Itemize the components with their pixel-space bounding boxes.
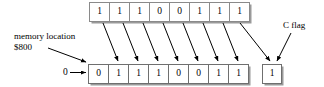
memory-address-label: $800 xyxy=(14,42,32,53)
c-flag-box xyxy=(263,65,282,84)
shift-arrow-bit-5 xyxy=(183,23,198,61)
shift-arrow-bit-7 xyxy=(223,23,238,61)
shift-arrow-bit-6 xyxy=(203,23,218,61)
result-bits-row xyxy=(89,65,249,84)
shift-arrow-bit-2 xyxy=(123,23,138,61)
shift-right-diagram: 1 1 1 0 0 1 1 1 0 1 1 1 0 0 1 1 1 memory… xyxy=(0,0,324,87)
diagram-vector-layer xyxy=(0,0,324,87)
memory-location-leader-arrow xyxy=(48,48,86,62)
zero-input-label: 0 xyxy=(63,67,68,78)
shift-arrow-bit-1 xyxy=(103,23,118,61)
shift-arrow-bit-3 xyxy=(143,23,158,61)
c-flag-leader-arrow xyxy=(277,33,291,61)
source-bits-row xyxy=(90,3,250,22)
shift-arrow-bit-4 xyxy=(163,23,178,61)
shift-arrows-group xyxy=(103,23,270,61)
memory-location-label: memory location xyxy=(14,31,75,42)
shift-arrow-bit-8-to-carry xyxy=(240,23,270,61)
c-flag-label: C flag xyxy=(283,20,305,31)
